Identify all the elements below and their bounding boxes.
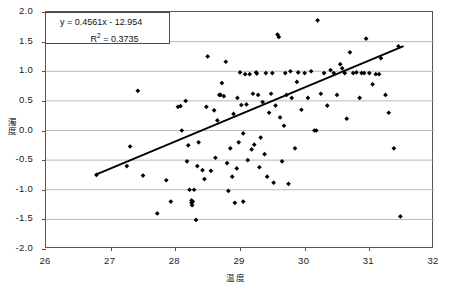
data-point: [293, 146, 298, 151]
regression-equation: y = 0.4561x - 12.954: [52, 16, 163, 29]
data-point: [223, 59, 228, 64]
data-point: [258, 135, 263, 140]
data-point: [241, 131, 246, 136]
data-point: [200, 168, 205, 173]
x-axis-tick-label: 31: [353, 256, 383, 266]
data-point: [239, 103, 244, 108]
data-point: [202, 177, 207, 182]
data-point: [257, 165, 262, 170]
y-axis-tick-label: 1.0: [0, 65, 33, 75]
data-point: [383, 93, 388, 98]
data-point: [318, 91, 323, 96]
x-axis-tick: [111, 247, 112, 251]
y-axis-tick: [42, 71, 46, 72]
data-point: [141, 173, 146, 178]
data-point: [209, 168, 214, 173]
data-layer: [46, 12, 434, 249]
data-point: [155, 211, 160, 216]
data-point: [315, 18, 320, 23]
scatter-chart: 濁度 y = 0.4561x - 12.954 R2 = 0.3735 -2.0…: [0, 0, 471, 293]
y-axis-tick-label: -0.5: [0, 154, 33, 164]
x-axis-tick-label: 26: [30, 256, 60, 266]
y-axis-tick: [42, 219, 46, 220]
data-point: [267, 110, 272, 115]
y-axis-tick-label: -1.0: [0, 184, 33, 194]
data-point: [244, 102, 249, 107]
data-point: [289, 96, 294, 101]
data-point: [249, 147, 254, 152]
y-axis-tick-label: -1.5: [0, 213, 33, 223]
data-point: [135, 88, 140, 93]
y-axis-tick-label: 1.5: [0, 36, 33, 46]
data-point: [234, 166, 239, 171]
data-point: [245, 158, 250, 163]
gridlines: [46, 42, 434, 220]
x-axis-tick-label: 30: [289, 256, 319, 266]
data-point: [212, 108, 217, 113]
data-point: [128, 144, 133, 149]
data-point: [306, 96, 311, 101]
y-axis-tick-label: -2.0: [0, 243, 33, 253]
data-point: [251, 91, 256, 96]
data-point: [232, 200, 237, 205]
data-point: [252, 142, 257, 147]
y-axis-tick: [42, 160, 46, 161]
data-point: [286, 181, 291, 186]
data-point: [213, 155, 218, 160]
data-point: [196, 140, 201, 145]
y-axis-tick: [42, 190, 46, 191]
data-point: [183, 99, 188, 104]
data-point: [256, 93, 261, 98]
data-point: [247, 72, 252, 77]
data-point: [309, 69, 314, 74]
data-point: [186, 143, 191, 148]
data-point: [262, 152, 267, 157]
data-point: [278, 115, 283, 120]
r-squared-value: = 0.3735: [101, 34, 139, 44]
data-point: [340, 66, 345, 71]
data-point: [204, 104, 209, 109]
data-point: [357, 96, 362, 101]
data-point: [398, 214, 403, 219]
x-axis-tick-label: 32: [418, 256, 448, 266]
data-point: [344, 116, 349, 121]
data-point: [269, 91, 274, 96]
r-squared-text: R2 = 0.3735: [52, 29, 163, 46]
data-point: [164, 178, 169, 183]
x-axis-tick-label: 28: [159, 256, 189, 266]
data-point: [205, 54, 210, 59]
data-point: [195, 164, 200, 169]
data-point: [364, 36, 369, 41]
data-point: [295, 80, 300, 85]
x-axis-tick: [369, 247, 370, 251]
equation-annotation-box: y = 0.4561x - 12.954 R2 = 0.3735: [45, 12, 170, 44]
x-axis-tick-label: 27: [95, 256, 125, 266]
data-point: [235, 96, 240, 101]
x-axis-tick-label: 29: [224, 256, 254, 266]
data-point: [241, 199, 246, 204]
y-axis-tick-label: 0.0: [0, 125, 33, 135]
x-axis-tick: [240, 247, 241, 251]
data-point: [236, 140, 241, 145]
data-point: [386, 110, 391, 115]
y-axis-tick: [42, 131, 46, 132]
data-point: [220, 81, 225, 86]
y-axis-tick: [42, 101, 46, 102]
data-point: [338, 62, 343, 67]
data-point: [288, 69, 293, 74]
data-point: [179, 128, 184, 133]
trend-line: [96, 46, 403, 174]
data-point: [377, 72, 382, 77]
plot-area: [45, 11, 433, 248]
data-point: [192, 187, 197, 192]
data-point: [215, 118, 220, 123]
y-axis-tick-label: 2.0: [0, 6, 33, 16]
data-point: [230, 174, 235, 179]
data-point: [225, 161, 230, 166]
data-point: [370, 82, 375, 87]
data-point: [273, 103, 278, 108]
data-point: [243, 72, 248, 77]
data-point: [124, 164, 129, 169]
x-axis-tick: [175, 247, 176, 251]
y-axis-tick: [42, 249, 46, 250]
